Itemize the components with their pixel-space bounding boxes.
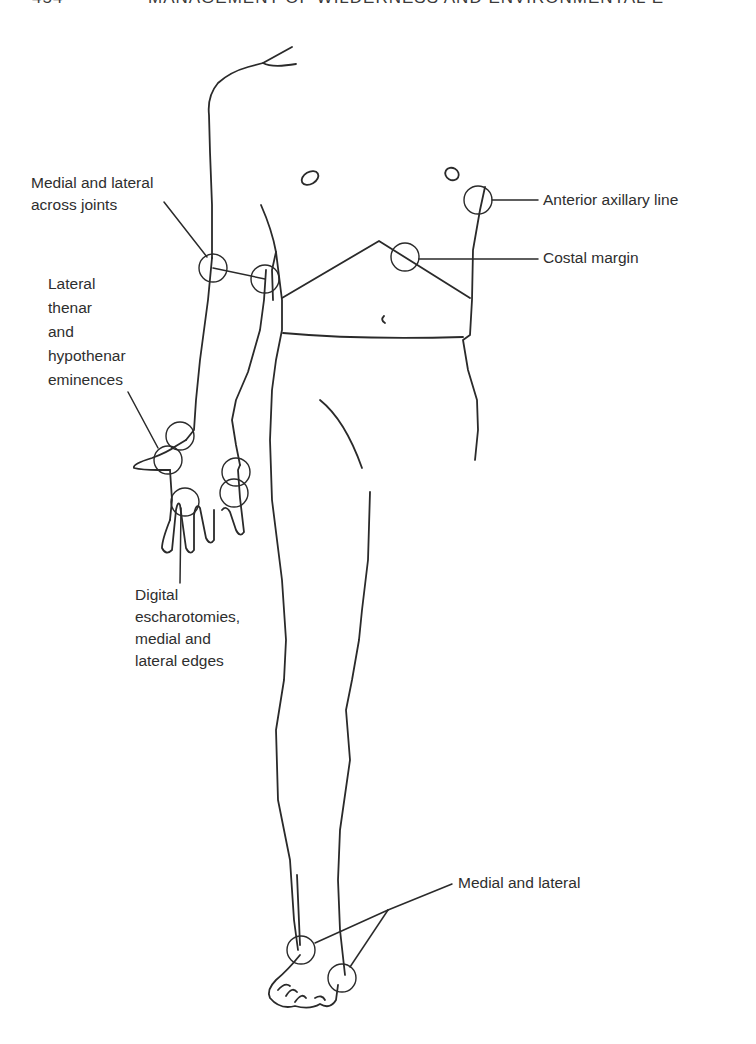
site-anterior-axillary <box>464 186 492 214</box>
costal-margin-line <box>282 241 470 298</box>
label-digital-line-4: lateral edges <box>135 650 240 672</box>
label-hand-line-3: and <box>48 320 126 344</box>
label-digital-escharotomies: Digital escharotomies, medial and latera… <box>135 584 240 672</box>
label-hand-line-4: hypothenar <box>48 344 126 368</box>
right-nipple <box>443 165 461 182</box>
label-ankle: Medial and lateral <box>458 872 580 894</box>
left-foot <box>269 955 338 1008</box>
label-hand-eminences: Lateral thenar and hypothenar eminences <box>48 272 126 392</box>
torso-right-side <box>463 187 485 460</box>
site-digital <box>171 488 199 516</box>
label-anterior-axillary: Anterior axillary line <box>543 189 678 211</box>
label-hand-line-5: eminences <box>48 368 126 392</box>
label-elbow-line-2: across joints <box>31 194 153 216</box>
toes <box>278 985 325 1002</box>
label-elbow-joints: Medial and lateral across joints <box>31 172 153 216</box>
body-outline-figure <box>0 0 756 1044</box>
leader-digital <box>180 508 181 583</box>
leader-hand <box>128 392 158 448</box>
label-hand-line-1: Lateral <box>48 272 126 296</box>
label-costal-margin: Costal margin <box>543 247 639 269</box>
left-nipple <box>299 168 321 187</box>
neck-line <box>209 47 292 258</box>
label-digital-line-3: medial and <box>135 628 240 650</box>
neck-line-2 <box>263 63 296 66</box>
hand-palm <box>170 470 172 520</box>
site-hypothenar-2 <box>220 479 248 507</box>
groin-line <box>320 400 362 468</box>
waist-line <box>283 333 463 338</box>
label-digital-line-2: escharotomies, <box>135 606 240 628</box>
torso-left-side <box>270 252 298 950</box>
site-ankle-left <box>287 936 315 964</box>
leg-right-line <box>297 875 300 945</box>
leader-ankle-main <box>388 884 452 910</box>
inner-leg-line <box>338 492 370 975</box>
site-ankle-right <box>328 964 356 992</box>
forearm-inner <box>232 270 266 465</box>
label-digital-line-1: Digital <box>135 584 240 606</box>
label-elbow-line-1: Medial and lateral <box>31 172 153 194</box>
finger-2 <box>222 465 244 535</box>
thumb <box>134 440 186 470</box>
inner-arm-line <box>261 205 276 300</box>
leader-elbow-link <box>213 268 265 279</box>
navel <box>382 316 385 323</box>
finger-1 <box>162 503 214 552</box>
forearm-outer <box>186 258 212 440</box>
leader-elbow <box>164 202 207 257</box>
label-hand-line-2: thenar <box>48 296 126 320</box>
